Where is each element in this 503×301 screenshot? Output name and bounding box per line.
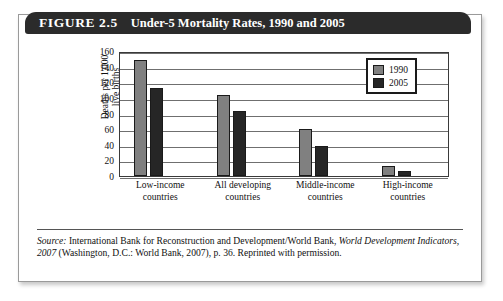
category-label-line-1: Low-income bbox=[136, 180, 185, 190]
y-tick-label: 120 bbox=[74, 78, 114, 88]
bar-1990 bbox=[217, 95, 230, 176]
chart-region: Deaths per 1,000 live births 02040608010… bbox=[19, 41, 481, 227]
bar-group bbox=[285, 53, 368, 176]
legend-swatch-2005-icon bbox=[373, 78, 384, 88]
source-label: Source: bbox=[37, 235, 66, 246]
legend-swatch-1990-icon bbox=[373, 65, 384, 75]
legend-label-1990: 1990 bbox=[389, 65, 408, 75]
x-axis-category-labels: Low-incomecountriesAll developingcountri… bbox=[119, 180, 449, 214]
y-tick-label: 100 bbox=[74, 94, 114, 104]
source-text-2: (Washington, D.C.: World Bank, 2007), p.… bbox=[56, 247, 342, 258]
chart-legend: 1990 2005 bbox=[366, 58, 417, 94]
y-tick-label: 60 bbox=[74, 125, 114, 135]
y-tick-label: 140 bbox=[74, 63, 114, 73]
bar-2005 bbox=[315, 146, 328, 176]
y-tick-label: 0 bbox=[74, 172, 114, 182]
plot-area: 020406080100120140160 1990 2005 bbox=[119, 52, 449, 177]
source-note: Source: International Bank for Reconstru… bbox=[37, 229, 463, 260]
category-label-line-2: countries bbox=[360, 192, 456, 204]
figure-number: FIGURE 2.5 bbox=[39, 15, 118, 31]
bar-1990 bbox=[134, 60, 147, 176]
category-label-line-1: High-income bbox=[383, 180, 433, 190]
y-tick-label: 80 bbox=[74, 110, 114, 120]
source-text-1: International Bank for Reconstruction an… bbox=[66, 235, 338, 246]
legend-item-2005: 2005 bbox=[373, 76, 408, 89]
legend-item-1990: 1990 bbox=[373, 63, 408, 76]
category-label: High-incomecountries bbox=[360, 180, 456, 203]
bar-2005 bbox=[233, 111, 246, 176]
y-tick-label: 160 bbox=[74, 47, 114, 57]
figure-card: FIGURE 2.5 Under-5 Mortality Rates, 1990… bbox=[18, 14, 482, 282]
bar-group bbox=[120, 53, 203, 176]
bar-1990 bbox=[299, 129, 312, 176]
bar-2005 bbox=[398, 171, 411, 176]
legend-label-2005: 2005 bbox=[389, 78, 408, 88]
bar-1990 bbox=[382, 166, 395, 176]
y-tick-label: 20 bbox=[74, 156, 114, 166]
bar-2005 bbox=[150, 88, 163, 176]
category-label-line-1: All developing bbox=[214, 180, 271, 190]
bar-group bbox=[203, 53, 286, 176]
figure-header-banner: FIGURE 2.5 Under-5 Mortality Rates, 1990… bbox=[25, 12, 471, 34]
y-tick-label: 40 bbox=[74, 141, 114, 151]
gridline bbox=[120, 178, 448, 179]
category-label-line-1: Middle-income bbox=[296, 180, 355, 190]
figure-title: Under-5 Mortality Rates, 1990 and 2005 bbox=[131, 16, 345, 31]
